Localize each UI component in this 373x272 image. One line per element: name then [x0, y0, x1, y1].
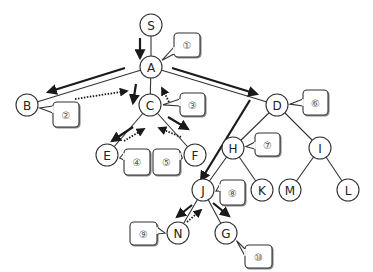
forward-arrow-9: [172, 68, 257, 94]
node-label: I: [318, 142, 322, 156]
forward-arrow-3: [133, 84, 136, 103]
callout-step-number: ③: [188, 100, 197, 111]
callout-step-number: ⑨: [139, 229, 148, 240]
node-label: B: [23, 99, 31, 113]
node-S: S: [140, 14, 162, 36]
callout-step-8: ⑧: [216, 180, 245, 205]
node-H: H: [222, 137, 244, 159]
callout-step-number: ②: [62, 110, 71, 121]
callout-step-number: ⑥: [311, 98, 320, 109]
node-J: J: [192, 179, 214, 201]
node-label: N: [174, 227, 183, 241]
callout-step-number: ⑦: [263, 140, 272, 151]
backtrack-arrow-12: [187, 210, 201, 222]
callout-step-5: ⑤: [153, 149, 182, 175]
node-label: S: [147, 19, 155, 33]
node-E: E: [96, 144, 118, 166]
node-label: J: [200, 184, 205, 198]
backtrack-arrow-2: [75, 91, 127, 99]
node-label: K: [258, 184, 267, 198]
node-label: D: [272, 99, 281, 113]
callout-step-1: ①: [162, 33, 200, 60]
node-D: D: [266, 94, 288, 116]
callout-step-4: ④: [120, 149, 150, 175]
node-A: A: [140, 56, 162, 78]
callout-step-10: ⑩: [237, 241, 272, 268]
callout-step-number: ⑩: [254, 252, 263, 263]
edge-A-B: [27, 67, 151, 105]
node-N: N: [167, 222, 189, 244]
callout-step-7: ⑦: [246, 133, 280, 156]
node-label: H: [228, 142, 237, 156]
edge-A-D: [151, 67, 277, 105]
forward-arrow-1: [48, 68, 125, 92]
node-B: B: [16, 94, 38, 116]
node-F: F: [184, 144, 206, 166]
node-M: M: [279, 179, 301, 201]
callout-step-2: ②: [40, 102, 79, 127]
node-C: C: [139, 94, 161, 116]
forward-arrow-4: [112, 127, 133, 141]
callout-step-6: ⑥: [290, 90, 328, 115]
node-label: A: [147, 61, 156, 75]
node-label: L: [345, 184, 352, 198]
search-tree-diagram: ①②③④⑤⑥⑦⑧⑨⑩ SABCDEFHIJKMLNG: [0, 0, 373, 272]
backtrack-arrow-8: [162, 88, 169, 102]
backtrack-arrow-7: [159, 128, 181, 137]
node-label: F: [192, 149, 199, 163]
forward-arrow-6: [168, 117, 188, 129]
node-label: G: [221, 227, 230, 241]
callout-step-number: ⑧: [228, 188, 237, 199]
callout-step-number: ⑤: [162, 157, 171, 168]
forward-arrow-11: [177, 205, 192, 217]
diagram-svg: ①②③④⑤⑥⑦⑧⑨⑩ SABCDEFHIJKMLNG: [0, 0, 373, 272]
callout-step-number: ④: [133, 157, 142, 168]
node-I: I: [309, 137, 331, 159]
node-label: C: [146, 99, 154, 113]
callout-step-9: ⑨: [130, 222, 165, 245]
node-G: G: [215, 222, 237, 244]
callout-step-3: ③: [163, 93, 205, 116]
node-L: L: [337, 179, 359, 201]
node-label: E: [103, 149, 111, 163]
callout-step-number: ①: [183, 40, 192, 51]
node-K: K: [251, 179, 273, 201]
node-label: M: [285, 184, 295, 198]
